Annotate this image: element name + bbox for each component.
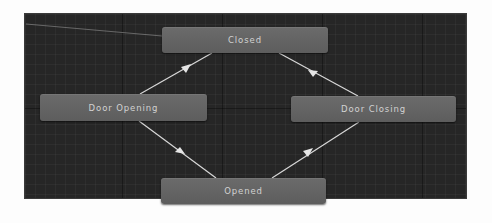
state-label: Door Closing (341, 104, 406, 114)
animator-window: Closed Door Opening Door Closing Opened (0, 0, 492, 223)
state-door-opening[interactable]: Door Opening (40, 94, 207, 121)
state-door-closing[interactable]: Door Closing (291, 96, 456, 122)
state-opened[interactable]: Opened (161, 178, 326, 204)
state-label: Closed (228, 35, 262, 45)
state-closed[interactable]: Closed (162, 27, 328, 53)
state-label: Door Opening (89, 103, 159, 113)
state-label: Opened (224, 186, 263, 196)
